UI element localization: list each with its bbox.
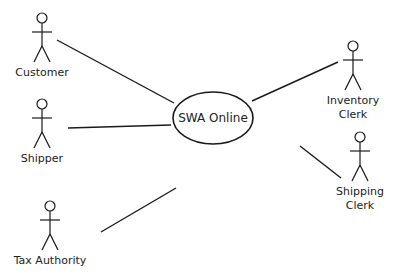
actor-inventory-clerk: InventoryClerk: [327, 41, 380, 121]
stick-figure-icon: [32, 99, 52, 148]
association-line-customer: [57, 40, 174, 103]
use-case-label: SWA Online: [178, 111, 248, 125]
actor-customer: Customer: [15, 13, 69, 79]
stick-figure-icon: [343, 41, 363, 90]
actor-label: Clerk: [339, 108, 368, 121]
actor-tax-authority: Tax Authority: [13, 201, 87, 267]
actor-label: Customer: [15, 66, 69, 79]
use-case-swa-online: SWA Online: [173, 92, 253, 144]
use-case-diagram: SWA Online CustomerShipperTax AuthorityI…: [0, 0, 397, 278]
actor-label: Tax Authority: [13, 254, 87, 267]
stick-figure-icon: [32, 13, 52, 62]
association-line-inventory-clerk: [252, 62, 338, 101]
association-line-shipper: [68, 125, 171, 128]
actor-shipping-clerk: ShippingClerk: [336, 132, 384, 212]
actor-label: Inventory: [327, 94, 380, 107]
stick-figure-icon: [350, 132, 370, 181]
actor-label: Shipping: [336, 185, 384, 198]
actor-label: Shipper: [21, 152, 64, 165]
association-line-tax-authority: [101, 188, 176, 232]
actor-shipper: Shipper: [21, 99, 64, 165]
actor-label: Clerk: [346, 199, 375, 212]
stick-figure-icon: [40, 201, 60, 250]
association-line-shipping-clerk: [300, 146, 341, 178]
